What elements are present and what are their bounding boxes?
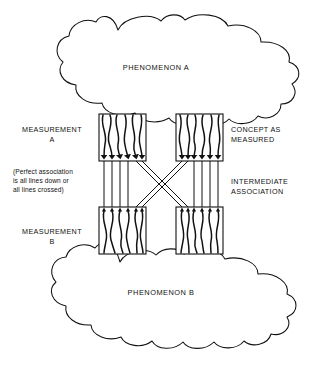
measurement-a-box bbox=[99, 114, 146, 161]
intermediate-association-box bbox=[176, 207, 223, 254]
concept-as-measured-box bbox=[176, 114, 223, 161]
diagram-canvas bbox=[0, 0, 321, 366]
measurement-b-box bbox=[99, 207, 146, 254]
diagram-root: PHENOMENON A PHENOMENON B MEASUREMENT A … bbox=[0, 0, 321, 366]
